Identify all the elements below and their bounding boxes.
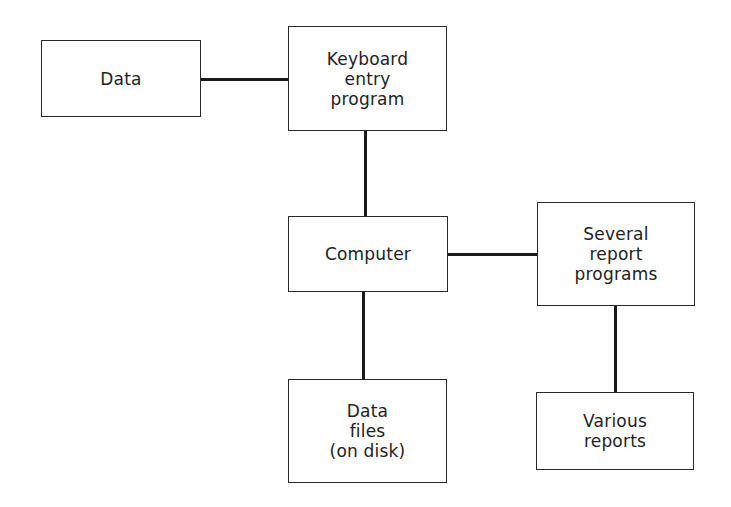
edge-computer-report-programs <box>448 253 537 256</box>
edge-data-keyboard <box>201 78 288 81</box>
node-data-files-label: Data files (on disk) <box>330 401 406 461</box>
edge-computer-data-files <box>362 292 365 379</box>
node-data-files: Data files (on disk) <box>288 379 447 483</box>
node-data-label: Data <box>100 69 141 89</box>
node-computer: Computer <box>288 216 448 292</box>
node-keyboard-entry-program: Keyboard entry program <box>288 26 447 131</box>
node-several-report-programs: Several report programs <box>537 202 695 306</box>
node-various-reports: Various reports <box>536 392 694 470</box>
edge-report-programs-reports <box>614 306 617 392</box>
node-several-report-programs-label: Several report programs <box>574 224 657 284</box>
node-data: Data <box>41 40 201 117</box>
node-various-reports-label: Various reports <box>583 411 647 451</box>
node-keyboard-entry-program-label: Keyboard entry program <box>327 49 409 109</box>
node-computer-label: Computer <box>325 244 411 264</box>
edge-keyboard-computer <box>364 131 367 216</box>
